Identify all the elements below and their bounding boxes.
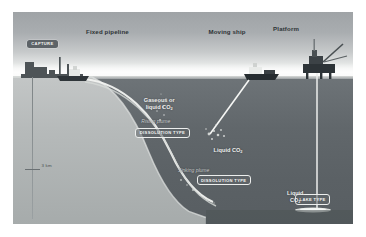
label-fixed-pipeline: Fixed pipeline [86,28,129,35]
moving-ship-icon [244,63,279,80]
docked-tanker-icon [57,66,89,81]
annotation-rising-plume: Rising plume [141,118,170,124]
annotation-lake-liquid-co2: Liquid CO2 [287,190,303,203]
badge-dissolution-type-rising: DISSOLUTION TYPE [135,128,189,138]
platform-icon [303,39,347,79]
label-platform: Platform [273,25,299,32]
liquid-co2-subscript: 2 [240,149,242,154]
liquid-co2-text: Liquid CO [214,147,241,153]
annotation-gaseous-or-liquid-co2: Gaseous or liquid CO2 [144,97,175,111]
annotation-liquid-co2: Liquid CO2 [214,147,243,153]
badge-capture: CAPTURE [27,40,57,48]
depth-tick-mark [25,169,41,170]
annotation-sinking-plume: Sinking plume [178,167,209,173]
lake-liquid-line-2: CO [290,197,298,203]
depth-axis-line [32,77,33,219]
diagram-canvas: 3 km Fixed pipeline Moving ship Platform… [13,12,353,224]
gaseous-subscript: 2 [171,106,173,111]
badge-dissolution-type-sinking: DISSOLUTION TYPE [197,175,251,185]
gaseous-line-2: liquid CO [146,104,171,110]
depth-scale-label: 3 km [42,163,52,168]
ship-tow-line [210,80,249,134]
lake-liquid-subscript: 2 [298,200,300,204]
gaseous-line-1: Gaseous or [144,97,175,103]
label-moving-ship: Moving ship [209,28,246,35]
deep-seafloor [206,210,353,224]
